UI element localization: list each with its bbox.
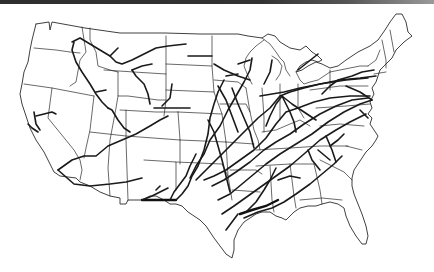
pipelines — [28, 38, 376, 230]
national-outline — [20, 14, 412, 258]
us-pipeline-map — [0, 0, 434, 272]
